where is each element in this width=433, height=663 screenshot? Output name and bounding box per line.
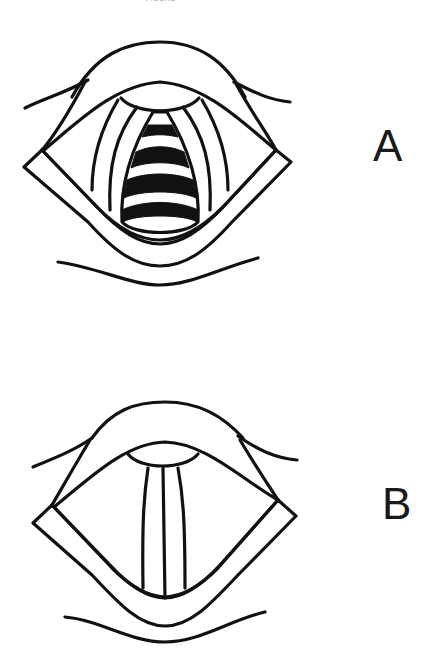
inner-lid xyxy=(54,442,278,507)
larynx-diagram-b xyxy=(0,0,433,663)
right-vocal-cord xyxy=(178,468,185,588)
panel-label-b: B xyxy=(382,482,411,526)
midline-glottis xyxy=(163,468,165,598)
epiglottis-outer-arch xyxy=(92,402,243,438)
arytenoid-dome xyxy=(128,454,198,466)
right-fold-wing xyxy=(238,436,297,460)
left-vocal-cord xyxy=(143,468,148,588)
